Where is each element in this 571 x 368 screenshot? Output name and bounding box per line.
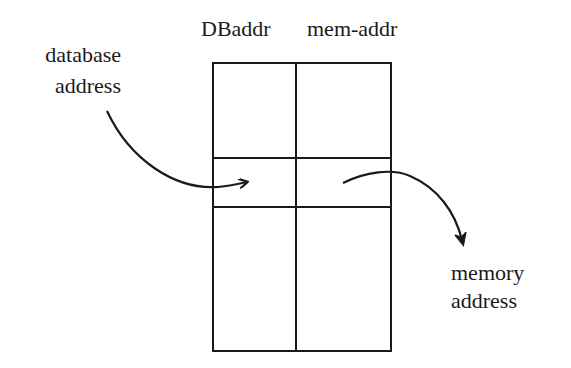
- output-label-line1: memory: [451, 262, 524, 284]
- output-label-line2: address: [451, 290, 517, 312]
- input-arrow-icon: [107, 111, 247, 187]
- output-arrow-icon: [343, 172, 462, 240]
- input-label-line1: database: [20, 44, 121, 66]
- column-header-mem-addr: mem-addr: [307, 18, 397, 40]
- address-table: [213, 63, 391, 351]
- input-label-line2: address: [20, 75, 121, 97]
- column-header-dbaddr: DBaddr: [201, 18, 271, 40]
- diagram-canvas: DBaddr mem-addr database address memory …: [0, 0, 571, 368]
